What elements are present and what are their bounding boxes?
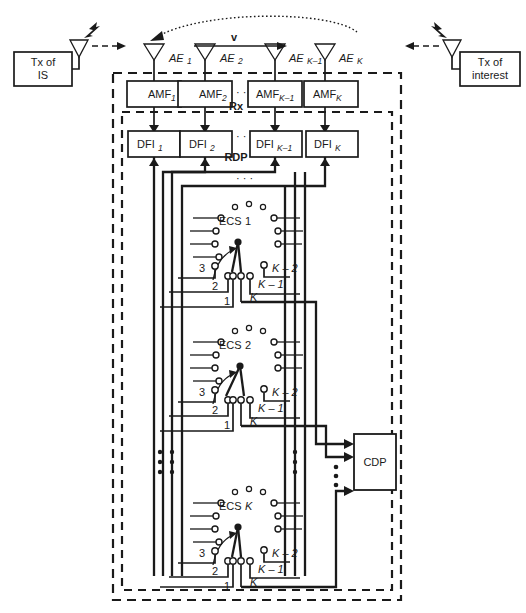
ecs-2-arc-dot-3: [260, 328, 265, 333]
ecs-k-contact-l3[interactable]: [212, 526, 218, 532]
ecs-k-terminal-3[interactable]: [212, 548, 218, 554]
cdp-input-ellipsis-dot-2: [334, 474, 339, 479]
cdp-label: CDP: [363, 456, 386, 468]
rx-frame-label: Rx: [229, 100, 244, 112]
amf-1-label: AMF: [148, 88, 172, 100]
ecs-2-contact-r3[interactable]: [275, 365, 281, 371]
ecs-2-label: ECS: [219, 339, 242, 351]
ecs-2-contact-r2[interactable]: [275, 352, 281, 358]
ecs-2-terminal-k[interactable]: [238, 397, 244, 403]
antenna-element-2-index: 2: [237, 56, 243, 66]
ecs-1-terminal-k-1[interactable]: [247, 273, 253, 279]
tx-of-interest-label-line1: Tx of: [478, 56, 503, 68]
ecs-k-terminal-k-2-label: K – 2: [272, 547, 298, 559]
ecs-2-output-arrowhead: [344, 452, 354, 462]
ecs-1-terminal-1[interactable]: [230, 273, 236, 279]
ecs-k-wiper-blade-b[interactable]: [238, 527, 241, 557]
ecs-2-terminal-k-1[interactable]: [247, 397, 253, 403]
dfi-k-1-index: K–1: [277, 143, 292, 153]
ecs-k-terminal-1-label: 1: [224, 580, 230, 592]
ecs-k-arc-dot-1: [232, 489, 237, 494]
ecs-k-terminal-k[interactable]: [238, 558, 244, 564]
amf-k-1-index: K–1: [279, 93, 294, 103]
ecs-1-wiper-blade-a[interactable]: [232, 242, 238, 272]
antenna-element-k-1-index: K–1: [307, 56, 322, 66]
ecs-1-output-arrowhead: [344, 439, 354, 449]
ecs-k-arc-dot-2: [246, 486, 251, 491]
ecs-1-terminal-k-2-label: K – 2: [272, 262, 298, 274]
ecs-1-contact-l3[interactable]: [212, 241, 218, 247]
ecs-2-terminal-3-label: 3: [199, 386, 205, 398]
ecs-1-wiper-blade-b[interactable]: [238, 242, 241, 272]
ecs-1-terminal-3[interactable]: [212, 263, 218, 269]
ecs-stack-ellipsis-dot-1: [158, 450, 162, 454]
ecs-1-contact-r1[interactable]: [271, 215, 277, 221]
ecs-k-contact-l2[interactable]: [213, 513, 219, 519]
ecs-stack-ellipsis-dot-2: [158, 460, 162, 464]
dfi-k-1-output-arrowhead: [270, 158, 280, 166]
ecs-stack-ellipsis-dot-5: [170, 460, 174, 464]
ecs-2-terminal-k-2[interactable]: [261, 386, 267, 392]
ecs-k-output-arrowhead: [344, 486, 354, 496]
dfi-k-output-arrowhead: [320, 158, 330, 166]
ecs-k-contact-r2[interactable]: [275, 513, 281, 519]
dfi-k-1-label: DFI: [256, 138, 274, 150]
ecs-2-contact-l2[interactable]: [213, 352, 219, 358]
ecs-1-contact-l2[interactable]: [213, 228, 219, 234]
tx-of-interest-antenna-icon: [452, 57, 460, 69]
ecs-k-terminal-1[interactable]: [230, 558, 236, 564]
ecs-2-wiper-blade-b[interactable]: [240, 366, 244, 396]
ecs-k-contact-r3[interactable]: [275, 526, 281, 532]
tx-of-interest-lightning-icon: [431, 22, 447, 38]
antenna-element-1-index: 1: [187, 56, 192, 66]
cdp-input-ellipsis-dot-3: [334, 483, 339, 488]
ecs-k-index: K: [245, 500, 253, 512]
antenna-element-k-label: AE: [338, 52, 354, 64]
ecs-1-arc-dot-1: [232, 204, 237, 209]
ecs-k-contact-r1[interactable]: [271, 500, 277, 506]
ecs-2-terminal-k-2-label: K – 2: [272, 386, 298, 398]
ecs-k-terminal-k-2[interactable]: [261, 547, 267, 553]
ecs-1-wire-2: [169, 280, 228, 292]
dfi-2-output-arrowhead: [200, 158, 210, 166]
dfi-k-output-bus: [182, 157, 325, 576]
ecs-k-wire-3: [178, 555, 215, 563]
ecs-k-terminal-k-1[interactable]: [247, 558, 253, 564]
ecs-k-output-to-cdp: [241, 491, 344, 587]
ecs-2-terminal-3[interactable]: [212, 387, 218, 393]
rdp-frame-label: RDP: [224, 151, 247, 163]
tx-of-is-label-line1: Tx of: [31, 56, 56, 68]
ecs-1-contact-r3[interactable]: [275, 241, 281, 247]
ecs-1-wire-3: [178, 270, 215, 278]
block-diagram: Tx of IS Tx of interest v AE 1: [0, 0, 526, 613]
ecs-k-arc-dot-3: [260, 489, 265, 494]
tx-of-interest-label-line2: interest: [472, 69, 508, 81]
ecs-k-wiper-blade-a[interactable]: [232, 527, 238, 557]
antenna-element-1-label: AE: [168, 52, 184, 64]
ecs-stack-ellipsis-dot-3: [158, 470, 162, 474]
ecs-2-wire-3: [178, 394, 215, 402]
antenna-element-2-label: AE: [219, 52, 235, 64]
ecs-2-wiper-blade-a[interactable]: [226, 366, 240, 396]
ecs-1-label: ECS: [219, 215, 242, 227]
ecs-2-arc-dot-1: [232, 328, 237, 333]
dfi-2-output-bus: [163, 157, 205, 576]
ecs-1-terminal-k-2[interactable]: [261, 262, 267, 268]
tx-of-is-lightning-icon: [84, 22, 100, 38]
ecs-k-terminal-2-label: 2: [212, 565, 218, 577]
ecs-1-contact-r2[interactable]: [275, 228, 281, 234]
ecs-2-contact-l3[interactable]: [212, 365, 218, 371]
ecs-k-terminal-k-1-label: K – 1: [258, 563, 284, 575]
amf-k-index: K: [336, 93, 342, 103]
ecs-1-terminal-3-label: 3: [199, 262, 205, 274]
ecs-k-wire-2: [169, 565, 228, 577]
ecs-2-terminal-1-label: 1: [224, 419, 230, 431]
ecs-2-terminal-1[interactable]: [230, 397, 236, 403]
tx-of-interest-antenna-triangle: [443, 40, 461, 57]
ecs-2-arc-dot-2: [246, 325, 251, 330]
ecs-1-terminal-k[interactable]: [238, 273, 244, 279]
scan-arc-arrowhead: [150, 31, 164, 41]
ecs-2-contact-r1[interactable]: [271, 339, 277, 345]
antenna-element-k-index: K: [357, 56, 363, 66]
velocity-label: v: [231, 31, 238, 43]
